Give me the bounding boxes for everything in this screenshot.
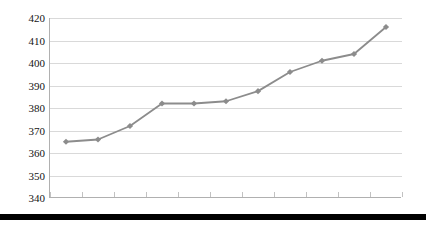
data-point-marker xyxy=(95,136,101,142)
y-axis-tick-label: 370 xyxy=(29,125,46,136)
y-axis-tick-label: 400 xyxy=(29,58,46,69)
y-axis-tick-label: 420 xyxy=(29,13,46,24)
y-axis-tick-label: 340 xyxy=(29,193,46,204)
y-axis-tick-label: 360 xyxy=(29,148,46,159)
y-axis-tick-label: 390 xyxy=(29,80,46,91)
y-axis-tick-label: 380 xyxy=(29,103,46,114)
data-point-marker xyxy=(223,98,229,104)
y-axis-tick-label: 410 xyxy=(29,35,46,46)
data-point-marker xyxy=(191,100,197,106)
data-point-marker xyxy=(319,58,325,64)
series-line xyxy=(66,27,386,142)
plot-area: 340350360370380390400410420 199920002001… xyxy=(49,18,401,198)
line-chart: 340350360370380390400410420 199920002001… xyxy=(0,0,426,212)
series-line-group xyxy=(50,18,402,198)
footer-filler xyxy=(0,220,426,228)
y-axis-tick-label: 350 xyxy=(29,170,46,181)
data-point-marker xyxy=(63,139,69,145)
x-axis-tick-mark xyxy=(402,192,403,197)
